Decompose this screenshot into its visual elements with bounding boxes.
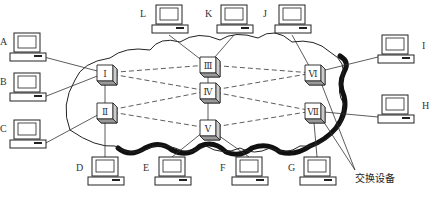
node-label: Ⅴ bbox=[204, 124, 212, 134]
node-label: Ⅲ bbox=[204, 61, 213, 71]
trunk-link bbox=[105, 65, 208, 73]
trunk-link bbox=[105, 111, 208, 128]
host-computer-j: J bbox=[263, 5, 311, 33]
host-label: E bbox=[143, 162, 149, 173]
switch-node-cube: Ⅶ bbox=[305, 103, 325, 123]
switch-node-cube: Ⅰ bbox=[97, 65, 117, 85]
host-computer-e: E bbox=[143, 157, 191, 185]
host-label: F bbox=[220, 162, 226, 173]
switch-node-cube: Ⅱ bbox=[97, 103, 117, 123]
host-computer-c: C bbox=[0, 120, 46, 148]
node-label: Ⅰ bbox=[103, 69, 107, 79]
trunk-link bbox=[208, 91, 313, 111]
host-label: J bbox=[263, 8, 267, 19]
host-computer-i: I bbox=[378, 35, 425, 63]
host-computer-f: F bbox=[220, 157, 268, 185]
host-computer-k: K bbox=[205, 5, 253, 33]
host-computer-a: A bbox=[0, 33, 46, 61]
host-computer-d: D bbox=[76, 157, 124, 185]
host-label: G bbox=[288, 162, 295, 173]
host-computer-l: L bbox=[140, 5, 188, 33]
switch-node-cube: Ⅲ bbox=[200, 57, 220, 77]
host-label: L bbox=[140, 8, 146, 19]
trunk-link bbox=[105, 91, 208, 111]
host-label: H bbox=[422, 100, 429, 111]
switch-node-cube: Ⅴ bbox=[200, 120, 220, 140]
host-computer-h: H bbox=[378, 95, 429, 123]
host-label: K bbox=[205, 8, 213, 19]
switch-node-cube: Ⅳ bbox=[200, 83, 220, 103]
access-link bbox=[44, 111, 105, 144]
host-label: I bbox=[422, 40, 425, 51]
trunk-link bbox=[208, 111, 313, 128]
trunk-link bbox=[105, 73, 208, 91]
host-label: C bbox=[0, 123, 7, 134]
host-label: D bbox=[76, 162, 83, 173]
access-link bbox=[44, 57, 105, 73]
trunk-link bbox=[208, 73, 313, 91]
switch-nodes: ⅠⅡⅢⅣⅤⅥⅦ bbox=[97, 57, 325, 140]
trunk-link bbox=[208, 65, 313, 73]
switching-equipment-label: 交换设备 bbox=[355, 172, 395, 184]
host-computer-g: G bbox=[288, 157, 336, 185]
access-link bbox=[44, 73, 105, 97]
switch-node-cube: Ⅵ bbox=[305, 65, 325, 85]
node-label: Ⅶ bbox=[306, 107, 319, 117]
node-label: Ⅵ bbox=[307, 69, 317, 79]
host-computer-b: B bbox=[0, 73, 46, 101]
host-label: A bbox=[0, 36, 8, 47]
host-label: B bbox=[0, 76, 7, 87]
node-label: Ⅳ bbox=[204, 87, 214, 97]
network-diagram: ABCDEFGHIJKL ⅠⅡⅢⅣⅤⅥⅦ 交换设备 bbox=[0, 0, 431, 200]
node-label: Ⅱ bbox=[102, 107, 108, 117]
